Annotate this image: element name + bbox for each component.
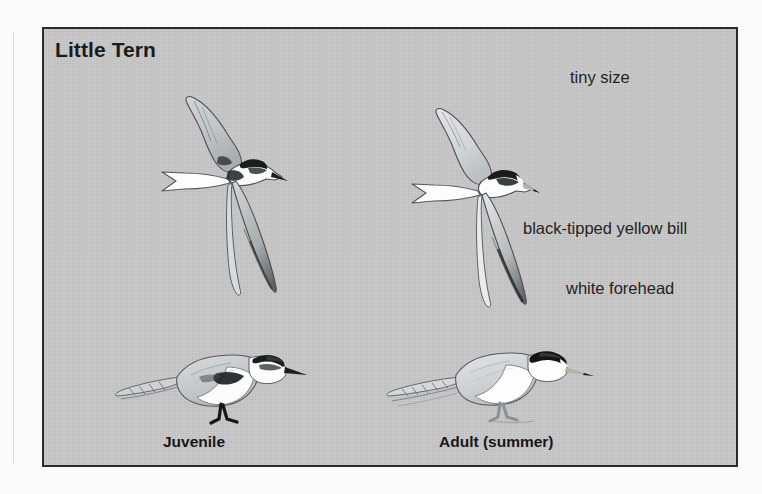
annotation-white-forehead: white forehead	[566, 279, 674, 298]
little-tern-adult-in-flight-illustration	[382, 83, 542, 323]
little-tern-adult-perched-illustration	[374, 325, 599, 427]
caption-adult-summer: Adult (summer)	[439, 433, 554, 451]
little-tern-juvenile-perched-illustration	[99, 325, 314, 427]
annotation-tiny-size: tiny size	[570, 68, 630, 87]
annotation-black-tipped-yellow-bill: black-tipped yellow bill	[523, 219, 687, 238]
field-guide-plate: Little Tern	[42, 27, 738, 467]
page-title: Little Tern	[55, 38, 156, 62]
page-margin-rule	[13, 31, 14, 463]
little-tern-juvenile-in-flight-illustration	[132, 71, 292, 311]
caption-juvenile: Juvenile	[163, 433, 225, 451]
